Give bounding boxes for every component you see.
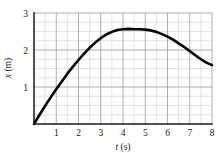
chart-figure: 3 2 1 1 2 3 4 5 6 7 8 t (s) x (m) <box>0 0 220 153</box>
x-tick-label: 7 <box>187 128 192 138</box>
x-axis-title: t (s) <box>115 142 130 153</box>
x-axis-title-unit: (s) <box>118 142 130 153</box>
y-tick-label: 2 <box>23 46 28 56</box>
y-axis-title-unit: (m) <box>3 58 14 74</box>
x-tick-label: 4 <box>121 128 126 138</box>
x-tick-label: 2 <box>76 128 81 138</box>
x-tick-label: 5 <box>143 128 148 138</box>
y-axis-title: x (m) <box>3 58 14 79</box>
x-tick-label: 3 <box>98 128 103 138</box>
x-tick-label: 6 <box>165 128 170 138</box>
x-tick-label: 8 <box>210 128 215 138</box>
position-vs-time-chart: 3 2 1 1 2 3 4 5 6 7 8 t (s) x (m) <box>0 0 220 153</box>
y-tick-label: 1 <box>23 83 28 93</box>
y-tick-label: 3 <box>23 9 28 19</box>
x-tick-label: 1 <box>54 128 59 138</box>
